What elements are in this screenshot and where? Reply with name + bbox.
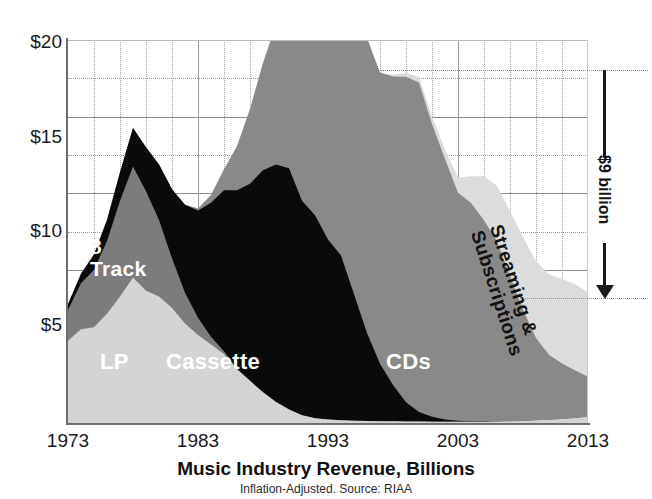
- y-tick-5: $5: [4, 314, 62, 336]
- chart-subtitle: Inflation-Adjusted. Source: RIAA: [0, 482, 652, 496]
- annotation-label: $9 billion: [595, 155, 613, 224]
- x-tick-1973: 1973: [28, 430, 108, 452]
- y-axis-line: [66, 38, 68, 425]
- series-label-cassette: Cassette: [166, 350, 260, 373]
- y-axis-ticks: $20 $15 $10 $5: [0, 0, 62, 499]
- x-tick-1993: 1993: [288, 430, 368, 452]
- y-tick-10: $10: [4, 220, 62, 242]
- series-label-cds: CDs: [386, 350, 431, 373]
- chart-root: $20 $15 $10 $5 1973 1983 1993 2003 2013 …: [0, 0, 652, 499]
- plot-frame-right: [587, 40, 588, 423]
- annotation-guide-bottom: [520, 298, 648, 299]
- annotation-arrow-stem-lower: [603, 243, 606, 287]
- x-tick-2003: 2003: [418, 430, 498, 452]
- stacked-area-series: [68, 40, 588, 423]
- x-tick-1983: 1983: [158, 430, 238, 452]
- series-label-lp: LP: [100, 350, 129, 373]
- x-axis-line: [66, 423, 590, 425]
- plot-area: [68, 40, 588, 423]
- annotation-arrow-stem-upper: [603, 70, 606, 158]
- annotation-arrow-head-icon: [596, 285, 614, 299]
- series-label-8-track: 8 Track: [90, 236, 146, 280]
- plot-frame-top: [68, 40, 588, 41]
- y-tick-20: $20: [4, 31, 62, 53]
- x-tick-2013: 2013: [548, 430, 628, 452]
- y-tick-15: $15: [4, 126, 62, 148]
- annotation-guide-top: [380, 70, 648, 71]
- chart-title: Music Industry Revenue, Billions: [0, 458, 652, 480]
